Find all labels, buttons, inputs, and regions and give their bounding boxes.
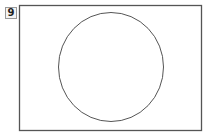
rectangle-shape (20, 6, 202, 131)
circle-shape (59, 13, 164, 122)
diagram-canvas (0, 0, 204, 133)
